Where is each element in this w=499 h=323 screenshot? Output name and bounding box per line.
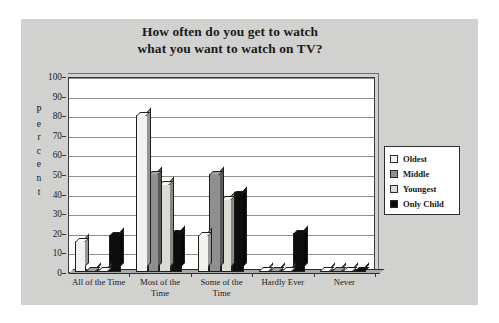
bar-side-face: [220, 167, 224, 267]
gridline: [69, 98, 374, 99]
chart-title-line-1: How often do you get to watch: [50, 24, 410, 41]
y-axis-tick-mark: [62, 155, 66, 156]
x-axis-category-label: Most of theTime: [129, 277, 190, 298]
x-axis-category-label: All of the Time: [68, 277, 129, 288]
y-axis-tick-label: 80: [53, 111, 62, 121]
x-axis-category-label-line: Time: [129, 288, 190, 299]
legend-item: Only Child: [390, 196, 459, 211]
y-axis-tick-label: 50: [53, 170, 62, 180]
x-axis-category-label-line: Time: [191, 288, 252, 299]
bar-side-face: [147, 108, 151, 267]
x-axis-category-label: Never: [314, 277, 375, 288]
y-axis-tick-mark: [62, 116, 66, 117]
y-axis-tick-mark: [62, 214, 66, 215]
x-axis-category-label-line: Hardly Ever: [252, 277, 313, 288]
gridline: [69, 156, 374, 157]
y-axis-tick-mark: [62, 136, 66, 137]
legend-label: Middle: [403, 169, 429, 179]
page-canvas: How often do you get to watch what you w…: [0, 0, 499, 323]
bar: [86, 270, 98, 272]
bar-side-face: [243, 186, 247, 267]
bar: [332, 270, 344, 272]
x-axis-category-label-line: Some of the: [191, 277, 252, 288]
gridline: [69, 137, 374, 138]
y-axis-tick-mark: [62, 97, 66, 98]
chart-legend: OldestMiddleYoungestOnly Child: [384, 146, 460, 215]
bar: [259, 270, 271, 272]
legend-label: Only Child: [403, 199, 444, 209]
bar: [282, 270, 294, 272]
legend-swatch: [390, 170, 398, 178]
x-axis-category-labels: All of the TimeMost of theTimeSome of th…: [68, 277, 375, 307]
y-axis-tick-mark: [62, 234, 66, 235]
x-axis-category-label: Some of theTime: [191, 277, 252, 298]
gridline: [69, 78, 374, 79]
gridline: [69, 117, 374, 118]
y-axis-tick-mark: [62, 195, 66, 196]
x-axis-tick-mark: [375, 273, 376, 277]
y-axis-tick-label: 10: [53, 248, 62, 258]
bar: [75, 241, 87, 272]
legend-label: Youngest: [403, 184, 436, 194]
chart-title-line-2: what you want to watch on TV?: [50, 41, 410, 58]
y-axis-tick-mark: [62, 77, 66, 78]
y-axis-tick-mark: [62, 273, 66, 274]
bar-side-face: [170, 176, 174, 267]
legend-swatch: [390, 155, 398, 163]
x-axis-category-label-line: Most of the: [129, 277, 190, 288]
legend-item: Youngest: [390, 181, 459, 196]
bar: [355, 270, 367, 272]
x-axis-category-label-line: All of the Time: [68, 277, 129, 288]
y-axis-tick-label: 20: [53, 229, 62, 239]
x-axis-category-label: Hardly Ever: [252, 277, 313, 288]
bar-side-face: [158, 167, 162, 267]
plot-area: [68, 77, 375, 273]
bar: [136, 115, 148, 272]
legend-item: Middle: [390, 166, 459, 181]
y-axis-tick-label: 100: [48, 72, 62, 82]
bar: [320, 270, 332, 272]
y-axis-tick-label: 70: [53, 131, 62, 141]
bar: [270, 270, 282, 272]
bar: [343, 270, 355, 272]
legend-item: Oldest: [390, 151, 459, 166]
y-axis-tick-label: 30: [53, 209, 62, 219]
legend-label: Oldest: [403, 154, 427, 164]
y-axis-tick-label: 90: [53, 92, 62, 102]
legend-swatch: [390, 200, 398, 208]
bar: [98, 270, 110, 272]
chart-title: How often do you get to watch what you w…: [50, 24, 410, 57]
bar-side-face: [231, 192, 235, 267]
y-axis-tick-label: 40: [53, 190, 62, 200]
x-axis-category-label-line: Never: [314, 277, 375, 288]
y-axis-tick-mark: [62, 175, 66, 176]
legend-swatch: [390, 185, 398, 193]
y-axis-tick-label: 60: [53, 150, 62, 160]
bar: [198, 235, 210, 272]
y-axis-tick-labels: 0102030405060708090100: [28, 77, 62, 273]
y-axis-tick-mark: [62, 253, 66, 254]
